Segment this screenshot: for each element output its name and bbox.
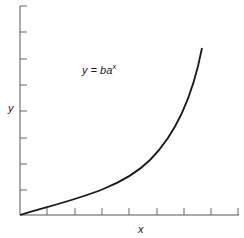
x-axis-label: x xyxy=(137,223,144,235)
y-axis-label: y xyxy=(7,102,15,114)
y-axis xyxy=(20,6,27,215)
x-axis xyxy=(20,208,239,215)
equation-label: y = bax xyxy=(81,62,117,76)
exponential-chart: y x y = bax xyxy=(0,0,244,238)
